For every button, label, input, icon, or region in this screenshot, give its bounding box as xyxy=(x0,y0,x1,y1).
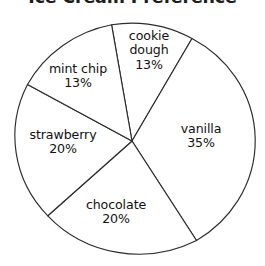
pie-value-strawberry: 20% xyxy=(15,142,111,156)
pie-value-chocolate: 20% xyxy=(66,212,166,226)
pie-label-mint-chip-text: mint chip xyxy=(36,62,120,76)
pie-label-vanilla: vanilla 35% xyxy=(163,122,239,151)
pie-value-vanilla: 35% xyxy=(163,136,239,150)
pie-label-chocolate-text: chocolate xyxy=(66,198,166,212)
pie-label-strawberry: strawberry 20% xyxy=(15,128,111,157)
pie-value-cookie-dough: 13% xyxy=(113,58,185,72)
pie-chart: Ice Cream Preference cookie dough 13% va… xyxy=(0,0,265,266)
pie-label-strawberry-text: strawberry xyxy=(15,128,111,142)
pie-label-chocolate: chocolate 20% xyxy=(66,198,166,227)
pie-label-mint-chip: mint chip 13% xyxy=(36,62,120,91)
pie-label-cookie-dough-line1: cookie xyxy=(113,29,185,43)
pie-label-cookie-dough: cookie dough 13% xyxy=(113,29,185,72)
pie-label-cookie-dough-line2: dough xyxy=(113,43,185,57)
pie-value-mint-chip: 13% xyxy=(36,76,120,90)
pie-label-vanilla-text: vanilla xyxy=(163,122,239,136)
